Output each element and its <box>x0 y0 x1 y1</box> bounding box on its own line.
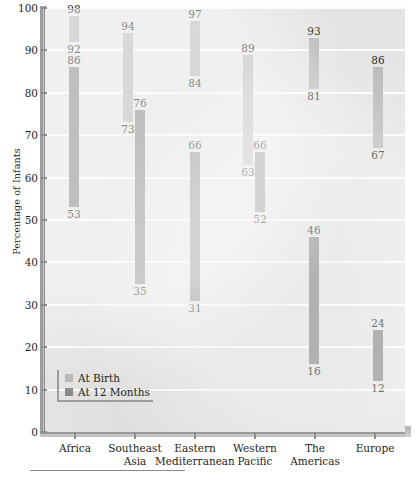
y-axis-tick-label: 60 <box>4 173 38 184</box>
x-axis-tick <box>194 432 196 439</box>
y-axis-tick-label: 100 <box>4 3 38 14</box>
bar-at-12-months <box>255 152 265 211</box>
y-axis-tick <box>41 7 47 9</box>
y-axis-tick-label: 10 <box>4 385 38 396</box>
legend-swatch-icon-at-birth <box>65 374 73 382</box>
plot-area: 9892865394737635978466318963665293814616… <box>45 8 405 432</box>
y-axis-tick <box>41 389 47 391</box>
y-axis-tick <box>41 431 47 433</box>
x-axis-category-label: Europe <box>325 442 417 455</box>
y-axis-tick <box>41 177 47 179</box>
y-axis-tick <box>41 219 47 221</box>
bar-value-label: 81 <box>305 91 323 102</box>
y-axis-tick <box>41 304 47 306</box>
bar-value-label: 94 <box>119 21 137 32</box>
bar-at-12-months <box>69 67 79 207</box>
legend-item-at-birth: At Birth <box>65 373 120 384</box>
bar-value-label: 76 <box>131 98 149 109</box>
y-axis-tick <box>41 49 47 51</box>
x-axis-tick <box>134 432 136 439</box>
bar-value-label: 93 <box>305 26 323 37</box>
legend-item-at-12-months: At 12 Months <box>65 387 150 398</box>
bar-at-birth <box>373 67 383 148</box>
gridline <box>45 92 405 94</box>
bar-value-label: 16 <box>305 366 323 377</box>
bar-at-12-months <box>309 237 319 364</box>
gridline <box>45 304 405 306</box>
bar-value-label: 31 <box>186 303 204 314</box>
legend-label-at-12-months: At 12 Months <box>78 387 150 398</box>
bar-value-label: 86 <box>65 55 83 66</box>
gridline <box>45 49 405 51</box>
gridline <box>45 261 405 263</box>
gridline <box>45 219 405 221</box>
y-axis-tick-label: 0 <box>4 427 38 438</box>
bar-value-label: 24 <box>369 318 387 329</box>
bar-value-label: 67 <box>369 150 387 161</box>
bar-value-label: 97 <box>186 9 204 20</box>
x-axis-tick <box>314 432 316 439</box>
y-axis-tick-label: 30 <box>4 300 38 311</box>
legend-swatch-icon-at-12-months <box>65 388 73 396</box>
bar-at-birth <box>69 16 79 41</box>
x-axis-tick <box>74 432 76 439</box>
y-axis-tick <box>41 92 47 94</box>
y-axis-tick <box>41 261 47 263</box>
footnote-divider <box>30 470 185 471</box>
range-bar-chart: Percentage of Infants 010203040506070809… <box>0 0 417 481</box>
gridline <box>45 134 405 136</box>
x-axis-right-cap <box>405 426 411 437</box>
bar-at-12-months <box>373 330 383 381</box>
y-axis-tick-label: 50 <box>4 215 38 226</box>
y-axis-tick-label: 70 <box>4 130 38 141</box>
bar-at-birth <box>123 33 133 122</box>
y-axis-tick-label: 40 <box>4 257 38 268</box>
y-axis-tick-label: 20 <box>4 342 38 353</box>
bar-value-label: 35 <box>131 286 149 297</box>
bar-value-label: 86 <box>369 55 387 66</box>
bar-value-label: 46 <box>305 225 323 236</box>
bar-value-label: 66 <box>186 140 204 151</box>
bar-at-12-months <box>135 110 145 284</box>
gridline <box>45 177 405 179</box>
chart-legend: At Birth At 12 Months <box>57 370 153 402</box>
bar-value-label: 53 <box>65 209 83 220</box>
bar-value-label: 66 <box>251 140 269 151</box>
gridline <box>45 7 405 9</box>
bar-at-birth <box>309 38 319 89</box>
bar-at-12-months <box>190 152 200 300</box>
bar-value-label: 92 <box>65 44 83 55</box>
bar-at-birth <box>190 21 200 76</box>
bar-value-label: 84 <box>186 78 204 89</box>
bar-value-label: 12 <box>369 383 387 394</box>
bar-value-label: 98 <box>65 4 83 15</box>
y-axis-tick-label: 80 <box>4 88 38 99</box>
x-axis-tick <box>254 432 256 439</box>
bar-value-label: 52 <box>251 214 269 225</box>
gridline <box>45 346 405 348</box>
bar-value-label: 89 <box>239 43 257 54</box>
y-axis-tick-labels: 0102030405060708090100 <box>0 0 38 481</box>
legend-label-at-birth: At Birth <box>78 373 120 384</box>
x-axis-tick <box>374 432 376 439</box>
y-axis-tick <box>41 134 47 136</box>
y-axis-tick <box>41 346 47 348</box>
y-axis-tick-label: 90 <box>4 45 38 56</box>
